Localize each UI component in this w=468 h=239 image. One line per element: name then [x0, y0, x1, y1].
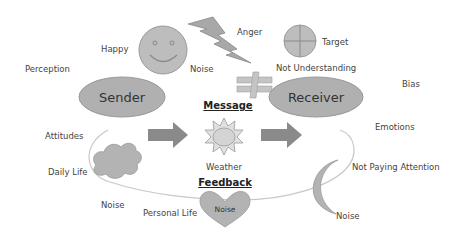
attitudes-label: Attitudes — [45, 131, 84, 141]
feedback-label: Feedback — [198, 177, 252, 188]
not-paying-attention-label: Not Paying Attention — [352, 162, 440, 172]
sender-node: Sender — [79, 77, 165, 117]
perception-label: Perception — [25, 64, 70, 74]
lightning-bolt-icon — [188, 17, 251, 63]
sender-label: Sender — [99, 90, 146, 105]
moon-noise-label: Noise — [336, 211, 360, 221]
weather-label: Weather — [206, 162, 242, 172]
noise-label: Noise — [190, 64, 214, 74]
anger-label: Anger — [237, 27, 263, 37]
receiver-node: Receiver — [269, 77, 363, 117]
bias-label: Bias — [402, 79, 420, 89]
arrow-right-icon — [148, 122, 188, 148]
emotions-label: Emotions — [375, 122, 415, 132]
personal-life-label: Personal Life — [143, 208, 197, 218]
receiver-label: Receiver — [288, 90, 345, 105]
sun-icon — [205, 118, 243, 155]
arrow-right-icon — [261, 122, 302, 148]
target-icon — [284, 25, 316, 57]
cloud-icon — [94, 143, 142, 178]
crescent-moon-icon — [313, 160, 338, 214]
communication-diagram: Sender Receiver Noise Perception Happy N… — [0, 0, 468, 239]
not-equal-icon — [237, 72, 272, 98]
target-label: Target — [321, 37, 349, 47]
smiley-face-icon — [139, 26, 187, 74]
daily-life-label: Daily Life — [48, 167, 88, 177]
heart-icon: Noise — [200, 191, 250, 227]
heart-noise-label: Noise — [215, 205, 236, 214]
not-understanding-label: Not Understanding — [276, 63, 356, 73]
message-label: Message — [203, 100, 253, 111]
happy-label: Happy — [101, 44, 128, 54]
cloud-noise-label: Noise — [101, 200, 125, 210]
